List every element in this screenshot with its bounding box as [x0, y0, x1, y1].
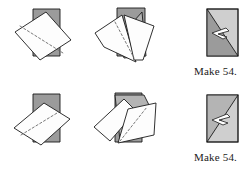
instruction-row-2: Make 54.	[0, 85, 249, 170]
row-1-step-finished-unit: Make 54.	[182, 0, 249, 85]
row-2-step-fold-open	[90, 85, 180, 170]
row-1-caption: Make 54.	[182, 65, 249, 77]
row-1-step-place-and-stitch	[6, 0, 88, 85]
row-2-caption: Make 54.	[182, 151, 249, 163]
white-fabric-patch	[14, 103, 70, 145]
row-1-step2-illustration	[90, 0, 180, 85]
row-2-step1-illustration	[6, 85, 88, 170]
diagram-sheet: Make 54.	[0, 0, 249, 170]
instruction-row-1: Make 54.	[0, 0, 249, 85]
row-1-step-fold-open	[90, 0, 180, 85]
row-2-step-finished-unit: Make 54.	[182, 85, 249, 170]
row-1-step1-illustration	[6, 0, 88, 85]
row-2-step2-illustration	[90, 85, 180, 170]
row-2-step-place-and-stitch	[6, 85, 88, 170]
